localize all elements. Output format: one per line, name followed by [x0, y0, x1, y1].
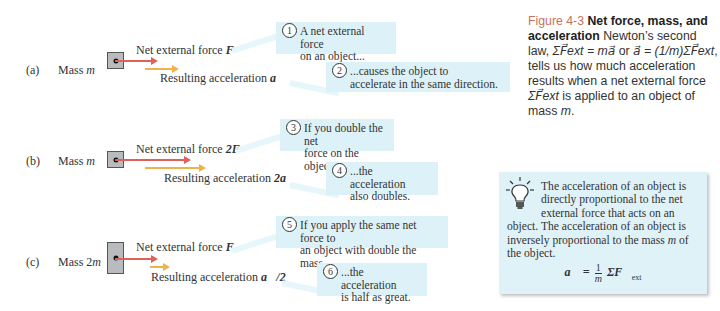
- force-label-b: Net external force 2F⃗: [136, 142, 249, 157]
- lightbulb-icon: [505, 176, 535, 212]
- force-arrow-c: [115, 258, 152, 260]
- mass-label-c: Mass 2m: [58, 255, 101, 270]
- acceleration-label-a: Resulting acceleration a⃗: [160, 71, 285, 86]
- callout-1: 1 A net external force on an object...: [276, 22, 396, 54]
- figure-caption: Figure 4-3 Net force, mass, and accelera…: [528, 14, 718, 119]
- acceleration-arrow-b: [145, 167, 200, 169]
- step-number-2: 2: [332, 63, 347, 78]
- row-label-c: (c): [26, 255, 39, 270]
- callout-3: 3 If you double the net force on the obj…: [280, 119, 394, 151]
- equation-net-force: ΣF⃗ext: [528, 89, 559, 103]
- callout-4: 4 ...the acceleration also doubles.: [326, 162, 438, 195]
- mass-label-b: Mass m: [58, 154, 95, 169]
- equation-acceleration: a⃗ = (1/m)ΣF⃗ext: [633, 44, 714, 58]
- mass-label-a: Mass m: [58, 63, 95, 78]
- step-number-6: 6: [323, 264, 338, 279]
- equation-newton-second-law: ΣF⃗ext = ma⃗: [553, 44, 616, 58]
- acceleration-arrow-a: [145, 68, 173, 70]
- key-concept-box: The acceleration of an object is directl…: [499, 172, 707, 294]
- force-arrow-a: [115, 60, 152, 62]
- acceleration-arrow-c: [150, 266, 164, 268]
- callout-6: 6 ...the acceleration is half as great.: [317, 263, 427, 296]
- fraction: 1m: [595, 263, 602, 284]
- force-arrow-b: [115, 159, 185, 161]
- figure-number: Figure 4-3: [528, 14, 584, 28]
- step-number-1: 1: [282, 23, 297, 38]
- concept-text: The acceleration of an object is directl…: [507, 180, 699, 260]
- step-number-4: 4: [332, 163, 347, 178]
- row-label-a: (a): [26, 63, 39, 78]
- force-label-c: Net external force F⃗: [136, 240, 243, 255]
- step-number-5: 5: [282, 217, 297, 232]
- acceleration-label-b: Resulting acceleration 2a⃗: [164, 171, 295, 186]
- row-label-b: (b): [26, 154, 40, 169]
- acceleration-formula: a⃗ = 1m ΣF⃗ext: [499, 263, 707, 284]
- callout-2: 2 ...causes the object to accelerate in …: [326, 62, 510, 92]
- force-label-a: Net external force F⃗: [136, 43, 243, 58]
- step-number-3: 3: [286, 120, 301, 135]
- acceleration-label-c: Resulting acceleration a⃗/2: [151, 270, 286, 285]
- callout-5: 5 If you apply the same net force to an …: [276, 216, 448, 248]
